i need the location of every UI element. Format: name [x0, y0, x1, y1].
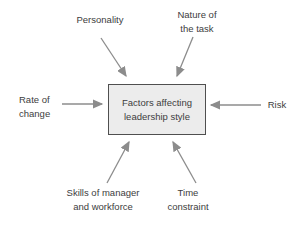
label-nature-of-task: Nature of the task [177, 8, 216, 35]
factors-diagram: Personality Nature of the task Rate of c… [0, 0, 299, 226]
label-personality: Personality [77, 13, 124, 27]
arrow-skills [107, 142, 129, 183]
label-risk: Risk [268, 98, 286, 112]
center-box: Factors affecting leadership style [108, 84, 206, 135]
arrow-nature-of-task [177, 37, 193, 76]
label-time-constraint: Time constraint [167, 186, 208, 213]
label-skills: Skills of manager and workforce [67, 186, 140, 213]
arrow-personality [101, 38, 126, 76]
label-rate-of-change: Rate of change [19, 93, 50, 120]
arrow-time-constraint [173, 142, 196, 183]
